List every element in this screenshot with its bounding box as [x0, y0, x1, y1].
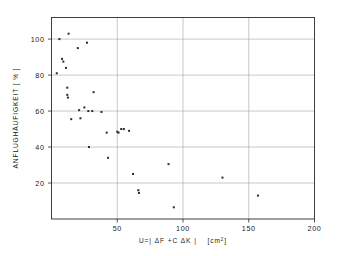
data-point: [100, 111, 102, 113]
data-point: [66, 87, 68, 89]
data-point: [118, 132, 120, 134]
data-point: [78, 109, 80, 111]
data-point: [70, 118, 72, 120]
data-point: [62, 61, 64, 63]
data-point: [168, 163, 170, 165]
y-tick-label: 60: [35, 107, 44, 116]
data-point: [128, 130, 130, 132]
data-point: [83, 106, 85, 108]
scatter-plot-figure: 50100150200 20406080100 U=| ΔF +C ΔK | […: [0, 0, 362, 256]
data-point: [221, 177, 223, 179]
data-point: [65, 67, 67, 69]
data-point: [61, 58, 63, 60]
y-tick-label: 100: [31, 35, 45, 44]
data-point: [56, 72, 58, 74]
data-point: [257, 195, 259, 197]
data-point: [77, 47, 79, 49]
data-point: [173, 206, 175, 208]
data-point: [137, 189, 139, 191]
y-tick-label: 80: [35, 71, 44, 80]
y-axis-title: ANFLUGHÄUFIGKEIT [ % ]: [12, 67, 20, 168]
data-point: [107, 157, 109, 159]
data-point: [138, 192, 140, 194]
data-point: [120, 128, 122, 130]
x-tick-label: 100: [176, 224, 190, 233]
x-axis-title: U=| ΔF +C ΔK | [cm2]: [139, 237, 227, 245]
plot-canvas: 50100150200 20406080100 U=| ΔF +C ΔK | […: [0, 0, 362, 256]
x-tick-label: 200: [308, 224, 322, 233]
data-point: [132, 173, 134, 175]
data-point: [123, 128, 125, 130]
figure-background: [0, 0, 362, 256]
data-point: [79, 117, 81, 119]
data-point: [68, 33, 70, 35]
data-point: [67, 97, 69, 99]
data-point: [87, 110, 89, 112]
data-point: [86, 42, 88, 44]
x-tick-label: 50: [113, 224, 122, 233]
data-point: [88, 146, 90, 148]
y-tick-label: 40: [35, 143, 44, 152]
data-point: [66, 94, 68, 96]
x-tick-label: 150: [242, 224, 256, 233]
data-point: [93, 91, 95, 93]
data-point: [91, 110, 93, 112]
data-point: [58, 38, 60, 40]
data-point: [106, 132, 108, 134]
y-tick-label: 20: [35, 179, 44, 188]
